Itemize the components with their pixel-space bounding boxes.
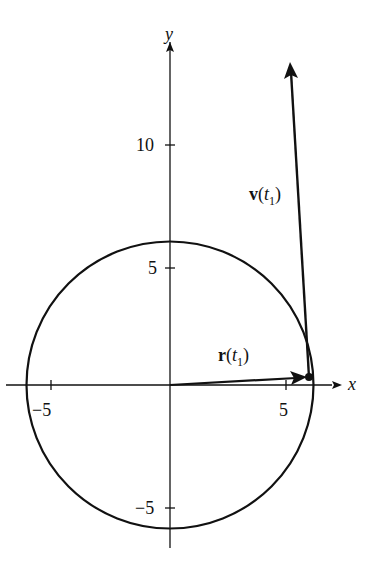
velocity-vector-label: v(t1)	[249, 184, 281, 208]
x-axis-arrow-icon	[332, 381, 342, 389]
position-vector-label: r(t1)	[218, 345, 249, 369]
y-tick-label-5: 5	[148, 258, 157, 278]
velocity-vector-line	[291, 72, 309, 377]
x-tick-label-5: 5	[279, 400, 288, 420]
tangent-point	[305, 373, 313, 381]
y-tick-label-10: 10	[136, 135, 154, 155]
diagram-canvas: −5 5 10 5 −5 x y r(t1) v(t1)	[0, 0, 383, 572]
x-axis-label: x	[347, 374, 356, 394]
position-vector-line	[170, 378, 296, 385]
x-tick-label-neg5: −5	[32, 400, 51, 420]
y-axis-label: y	[163, 24, 173, 44]
y-tick-label-neg5: −5	[135, 498, 154, 518]
